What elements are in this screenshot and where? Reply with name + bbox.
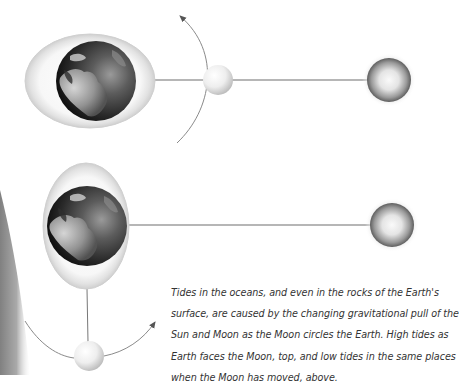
caption-line: Tides in the oceans, and even in the roc… xyxy=(171,282,437,303)
caption-line: Earth faces the Moon, top, and low tides… xyxy=(171,346,437,367)
moon-icon-bottom xyxy=(74,341,104,371)
earth-moon-line xyxy=(87,289,88,342)
moon-icon xyxy=(203,65,233,95)
figure-caption: Tides in the oceans, and even in the roc… xyxy=(171,282,437,386)
caption-line: when the Moon has moved, above. xyxy=(171,367,437,386)
sun-icon xyxy=(362,53,416,107)
background-planet-edge xyxy=(0,190,30,375)
sun-icon-bottom xyxy=(365,198,419,252)
caption-line: surface, are caused by the changing grav… xyxy=(171,303,437,324)
earth-icon-bottom xyxy=(47,186,127,266)
earth-icon xyxy=(56,41,136,121)
caption-line: Sun and Moon as the Moon circles the Ear… xyxy=(171,324,437,345)
high-tide-panel xyxy=(25,16,416,143)
